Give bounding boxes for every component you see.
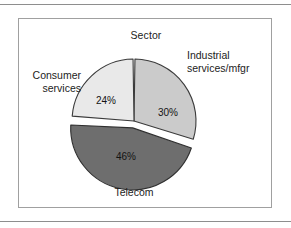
- figure-container: Sector 30% 46% 24% Industrial services/m…: [0, 0, 291, 228]
- pie-category-label-telecom-line1: Telecom: [79, 186, 189, 199]
- pie-value-label-consumer-services: 24%: [96, 95, 116, 106]
- pie-category-label-telecom: Telecom: [79, 186, 189, 199]
- pie-svg: [19, 19, 273, 209]
- pie-slices: [71, 59, 196, 190]
- top-divider-rule: [0, 4, 291, 5]
- pie-category-label-consumer-services-line1: Consumer: [13, 69, 81, 82]
- pie-category-label-consumer-services: Consumer services: [13, 69, 81, 94]
- pie-value-label-telecom: 46%: [116, 151, 136, 162]
- pie-category-label-consumer-services-line2: services: [13, 82, 81, 95]
- pie-category-label-industrial-services: Industrial services/mfgr: [187, 49, 279, 74]
- pie-slice-consumer-services[interactable]: [72, 59, 134, 121]
- chart-plot-box: Sector 30% 46% 24% Industrial services/m…: [18, 18, 272, 208]
- pie-category-label-industrial-services-line2: services/mfgr: [187, 62, 279, 75]
- pie-chart: 30% 46% 24%: [19, 19, 273, 209]
- pie-category-label-industrial-services-line1: Industrial: [187, 49, 279, 62]
- pie-value-label-industrial-services: 30%: [158, 107, 178, 118]
- bottom-divider-rule: [0, 221, 291, 222]
